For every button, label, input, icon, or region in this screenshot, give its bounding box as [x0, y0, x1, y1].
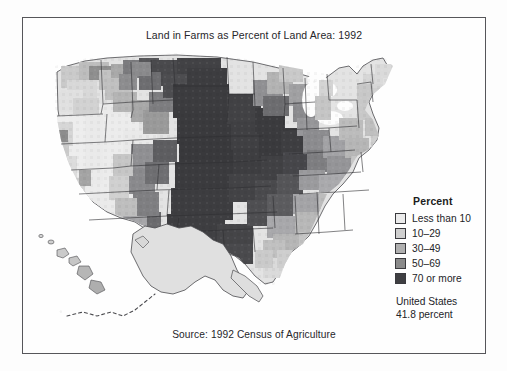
- legend-row[interactable]: 50–69: [395, 256, 487, 271]
- legend-label: 70 or more: [412, 273, 462, 284]
- hawaii-inset: [39, 234, 105, 294]
- legend-row[interactable]: 30–49: [395, 241, 487, 256]
- map-legend: Percent Less than 10 10–29 30–49 50–69 7…: [395, 195, 487, 321]
- map-svg: [27, 44, 415, 334]
- legend-label: Less than 10: [412, 213, 471, 224]
- legend-row[interactable]: 70 or more: [395, 271, 487, 286]
- legend-swatch-class-1: [395, 228, 406, 239]
- figure-frame: Land in Farms as Percent of Land Area: 1…: [22, 17, 486, 354]
- legend-row[interactable]: 10–29: [395, 226, 487, 241]
- national-total: United States 41.8 percent: [396, 295, 487, 321]
- legend-row[interactable]: Less than 10: [395, 211, 487, 226]
- page-title: Land in Farms as Percent of Land Area: 1…: [23, 29, 485, 41]
- choropleth-map: [27, 44, 415, 334]
- legend-swatch-class-4: [395, 273, 406, 284]
- legend-label: 50–69: [412, 258, 441, 269]
- county-shading: [27, 44, 415, 334]
- legend-swatch-class-2: [395, 243, 406, 254]
- scanned-page: Land in Farms as Percent of Land Area: 1…: [0, 0, 507, 371]
- source-note: Source: 1992 Census of Agriculture: [23, 329, 485, 340]
- legend-heading: Percent: [413, 195, 487, 207]
- legend-label: 10–29: [412, 228, 441, 239]
- legend-label: 30–49: [412, 243, 441, 254]
- national-total-line2: 41.8 percent: [396, 308, 487, 321]
- national-total-line1: United States: [396, 295, 487, 308]
- legend-swatch-class-0: [395, 213, 406, 224]
- legend-swatch-class-3: [395, 258, 406, 269]
